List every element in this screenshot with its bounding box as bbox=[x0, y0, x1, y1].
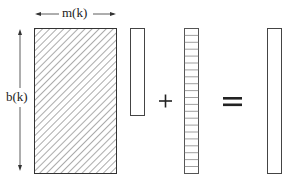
width-label: m(k) bbox=[62, 6, 87, 20]
result-vector bbox=[268, 29, 282, 174]
height-label: b(k) bbox=[6, 90, 28, 104]
striped-vector bbox=[185, 29, 199, 174]
vector bbox=[131, 29, 145, 116]
equals-icon bbox=[223, 97, 242, 106]
hatched-matrix bbox=[35, 29, 117, 174]
diagram-canvas bbox=[0, 0, 293, 184]
plus-icon bbox=[159, 95, 172, 108]
